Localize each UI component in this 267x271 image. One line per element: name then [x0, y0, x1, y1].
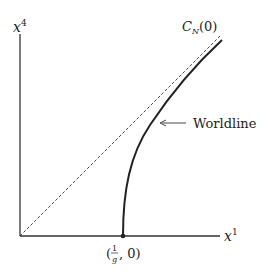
light-cone-line [20, 36, 220, 236]
worldline-curve [123, 40, 222, 236]
worldline-diagram: x4 x1 CN(0) Worldline ( 1 g , 0) [0, 0, 267, 271]
start-point-label: ( 1 g , 0) [106, 244, 141, 264]
svg-text:g: g [112, 255, 117, 264]
start-point-dot [121, 234, 126, 239]
y-axis-label: x4 [13, 18, 27, 35]
svg-text:, 0): , 0) [119, 246, 141, 261]
worldline-label: Worldline [193, 116, 257, 131]
svg-text:1: 1 [112, 244, 117, 253]
svg-text:(: ( [106, 246, 111, 261]
x-axis-label: x1 [224, 227, 238, 244]
light-cone-label: CN(0) [182, 19, 217, 36]
